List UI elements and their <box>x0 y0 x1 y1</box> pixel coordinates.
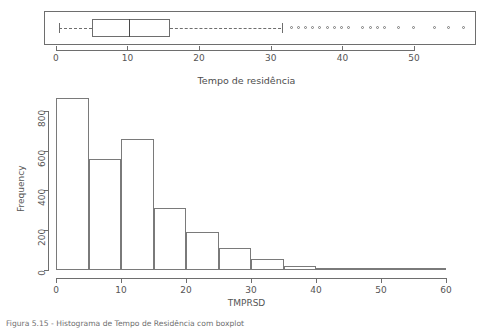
histogram-bar <box>89 159 122 270</box>
boxplot-axis-tick <box>271 46 272 51</box>
y-axis-tick-label: 0 <box>37 270 47 286</box>
boxplot-axis-line <box>56 50 414 51</box>
boxplot-panel: 01020304050 <box>0 0 493 70</box>
boxplot-outlier-point <box>369 26 372 29</box>
boxplot-outlier-point <box>290 26 293 29</box>
histogram-bar <box>381 268 414 270</box>
boxplot-whisker-low <box>59 28 91 29</box>
boxplot-cap-low <box>59 23 60 33</box>
boxplot-cap-high <box>282 23 283 33</box>
figure-caption: Figura 5.15 - Histograma de Tempo de Res… <box>6 319 493 329</box>
boxplot-axis-tick-label: 0 <box>53 53 59 63</box>
histogram-panel: Tempo de residência 0200400600800 010203… <box>0 70 493 310</box>
histogram-bar <box>219 248 252 270</box>
boxplot-axis-tick-label: 30 <box>265 53 276 63</box>
boxplot-outlier-point <box>347 26 350 29</box>
histogram-bar <box>284 266 317 270</box>
histogram-bar <box>349 268 382 270</box>
boxplot-median-line <box>129 19 130 37</box>
boxplot-outlier-point <box>326 26 329 29</box>
x-axis-tick-label: 30 <box>245 285 256 295</box>
x-axis-tick-label: 20 <box>180 285 191 295</box>
boxplot-axis-tick-label: 50 <box>408 53 419 63</box>
boxplot-outlier-point <box>433 26 436 29</box>
boxplot-whisker-high <box>170 28 281 29</box>
boxplot-axis-tick <box>199 46 200 51</box>
y-axis-label: Frequency <box>16 166 26 213</box>
boxplot-axis-tick <box>342 46 343 51</box>
x-axis-tick-label: 0 <box>53 285 59 295</box>
histogram-bar <box>154 208 187 270</box>
boxplot-outlier-point <box>304 26 307 29</box>
boxplot-box <box>92 19 171 37</box>
y-axis-tick-label: 800 <box>37 111 47 127</box>
boxplot-outlier-point <box>333 26 336 29</box>
histogram-bar <box>251 259 284 270</box>
y-axis-tick-label: 600 <box>37 151 47 167</box>
boxplot-outlier-point <box>412 26 415 29</box>
figure-container: 01020304050 Tempo de residência 02004006… <box>0 0 493 329</box>
boxplot-axis-tick-label: 40 <box>337 53 348 63</box>
boxplot-axis-tick <box>127 46 128 51</box>
boxplot-outlier-point <box>311 26 314 29</box>
boxplot-outlier-point <box>383 26 386 29</box>
x-axis-tick <box>446 278 447 283</box>
y-axis-tick-label: 200 <box>37 230 47 246</box>
x-axis-tick <box>121 278 122 283</box>
histogram-bar <box>186 232 219 270</box>
boxplot-axis-tick <box>56 46 57 51</box>
x-axis-tick <box>316 278 317 283</box>
histogram-bar <box>316 268 349 270</box>
x-axis-tick-label: 40 <box>310 285 321 295</box>
histogram-bar <box>56 98 89 270</box>
chart-title: Tempo de residência <box>0 75 493 86</box>
boxplot-axis-tick-label: 10 <box>122 53 133 63</box>
x-axis-tick <box>381 278 382 283</box>
histogram-plot-area <box>56 98 446 270</box>
x-axis-tick-label: 50 <box>375 285 386 295</box>
histogram-bar <box>414 268 447 270</box>
boxplot-axis-tick <box>414 46 415 51</box>
x-axis-tick-label: 60 <box>440 285 451 295</box>
boxplot-axis-tick-label: 20 <box>193 53 204 63</box>
x-axis-tick <box>186 278 187 283</box>
y-axis-tick-label: 400 <box>37 190 47 206</box>
boxplot-outlier-point <box>376 26 379 29</box>
histogram-bar <box>121 139 154 270</box>
boxplot-outlier-point <box>397 26 400 29</box>
x-axis-tick <box>56 278 57 283</box>
boxplot-x-axis: 01020304050 <box>0 46 493 68</box>
x-axis-tick <box>251 278 252 283</box>
boxplot-outlier-point <box>297 26 300 29</box>
boxplot-outlier-point <box>340 26 343 29</box>
x-axis-label: TMPRSD <box>0 298 493 308</box>
x-axis-tick-label: 10 <box>115 285 126 295</box>
boxplot-outlier-point <box>462 26 465 29</box>
